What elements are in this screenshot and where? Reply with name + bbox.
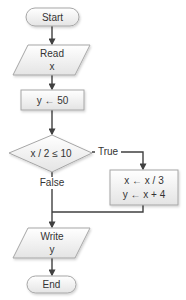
flowchart-canvas: Start Read x y ← 50 x / 2 ≤ 10 True Fals… [0,0,186,300]
end-label: End [43,279,61,290]
write-variable: y [50,244,55,255]
read-input-shape: Read x [13,45,90,75]
read-variable: x [50,61,55,72]
true-process-line1: x ← x / 3 [124,175,164,186]
assign-process-box: y ← 50 [21,90,84,110]
write-output-shape: Write y [13,228,90,258]
end-terminal: End [27,276,76,293]
decision-condition: x / 2 ≤ 10 [30,148,72,159]
write-label: Write [40,231,64,242]
line-true-merge [52,205,143,212]
true-branch-label: True [98,146,119,157]
assign-label: y ← 50 [37,95,69,106]
true-process-box: x ← x / 3 y ← x + 4 [110,170,178,205]
false-branch-label: False [40,177,65,188]
true-process-line2: y ← x + 4 [123,189,166,200]
decision-diamond: x / 2 ≤ 10 [9,135,92,172]
read-label: Read [40,48,64,59]
start-label: Start [42,12,63,23]
start-terminal: Start [26,8,79,26]
